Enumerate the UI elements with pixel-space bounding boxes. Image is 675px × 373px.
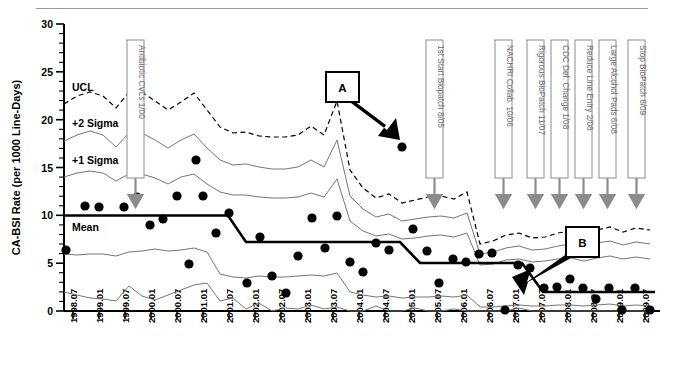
callout-a-label: A	[338, 82, 346, 94]
x-tick-label-5: 2001.01	[198, 288, 209, 323]
data-point	[145, 220, 154, 229]
callout-b-label: B	[578, 237, 586, 249]
data-point	[172, 191, 181, 200]
y-tick-label-20: 20	[41, 114, 53, 126]
annotation-rigorous-biopatch-label: Rigorous BioPatch 11/07	[537, 45, 546, 135]
data-point	[539, 283, 548, 292]
annotation-rigorous-biopatch[interactable]: Rigorous BioPatch 11/07	[527, 40, 546, 196]
data-point	[448, 254, 457, 263]
annotation-antibiotic-cvls[interactable]: Antibiotic CVLs 1/00	[127, 40, 146, 196]
data-point	[332, 211, 341, 220]
control-chart-plot: 30 25 20 15 10 5 0 CA-BSI Rate (per 1000…	[0, 0, 675, 373]
data-point	[158, 214, 167, 223]
data-point	[307, 213, 316, 222]
annotation-nachri-collab-label: NACHRI Collab. 10/06	[505, 45, 514, 127]
data-point	[461, 257, 470, 266]
x-tick-label-10: 2003.07	[328, 289, 339, 323]
x-tick-label-3: 2000.01	[146, 288, 157, 323]
data-point	[630, 283, 639, 292]
y-tick-label-25: 25	[41, 66, 53, 78]
data-point	[617, 305, 626, 314]
data-point	[191, 155, 200, 164]
plus-1-sigma-line	[64, 171, 650, 265]
mean-label: Mean	[72, 221, 99, 233]
data-point	[384, 245, 393, 254]
data-point	[578, 283, 587, 292]
data-point	[94, 202, 103, 211]
data-point	[224, 208, 233, 217]
x-tick-label-7: 2002.01	[250, 288, 261, 323]
data-point	[242, 278, 251, 287]
y-tick-label-10: 10	[41, 209, 53, 221]
plus-2-sigma-label: +2 Sigma	[72, 117, 119, 129]
data-point	[487, 248, 496, 257]
data-point	[184, 259, 193, 268]
data-point	[198, 191, 207, 200]
x-tick-label-16: 2006.07	[484, 289, 495, 323]
data-point	[267, 271, 276, 280]
annotation-stop-biopatch[interactable]: Stop BioPatch 6/09	[628, 40, 647, 196]
y-axis-title: CA-BSI Rate (per 1000 Line-Days)	[10, 79, 22, 255]
data-point	[211, 228, 220, 237]
y-tick-label-0: 0	[47, 305, 53, 317]
data-point	[552, 282, 561, 291]
data-point	[293, 251, 302, 260]
annotation-first-start-biopatch[interactable]: 1st Start Biopatch 8/05	[426, 40, 445, 196]
annotation-large-alcohol-pads-label: Large Alcohol Pads 6/08	[609, 45, 618, 134]
data-point	[320, 243, 329, 252]
data-point	[371, 238, 380, 247]
annotation-cdc-def-change-label: CDC Def. Change 1/08	[561, 45, 570, 130]
data-point	[645, 305, 654, 314]
annotation-antibiotic-cvls-label: Antibiotic CVLs 1/00	[137, 45, 146, 119]
data-point	[80, 201, 89, 210]
spc-chart-figure: 30 25 20 15 10 5 0 CA-BSI Rate (per 1000…	[0, 0, 675, 373]
data-point	[408, 224, 417, 233]
data-point	[345, 257, 354, 266]
data-point	[591, 294, 600, 303]
data-point	[255, 232, 264, 241]
data-point	[474, 249, 483, 258]
data-point	[358, 267, 367, 276]
data-point	[565, 274, 574, 283]
data-point	[61, 245, 70, 254]
data-point	[422, 246, 431, 255]
y-axis-major-ticks	[56, 24, 64, 311]
x-tick-label-1: 1999.01	[94, 288, 105, 323]
annotation-reduce-line-entry[interactable]: Reduce Line Entry 2/08	[575, 40, 594, 196]
x-tick-label-13: 2005.01	[406, 288, 417, 323]
x-tick-label-6: 2001.07	[224, 289, 235, 323]
annotation-reduce-line-entry-label: Reduce Line Entry 2/08	[585, 45, 594, 131]
callout-a[interactable]: A	[326, 72, 400, 140]
x-tick-label-12: 2004.07	[380, 289, 391, 323]
x-tick-label-14: 2005.07	[432, 289, 443, 323]
x-tick-label-4: 2000.07	[172, 289, 183, 323]
plus-1-sigma-label: +1 Sigma	[72, 154, 119, 166]
y-tick-label-15: 15	[41, 162, 53, 174]
data-point	[281, 288, 290, 297]
data-point	[397, 142, 406, 151]
data-point	[604, 283, 613, 292]
data-point	[132, 192, 141, 201]
ucl-label: UCL	[72, 81, 94, 93]
annotation-first-start-biopatch-label: 1st Start Biopatch 8/05	[436, 45, 445, 128]
data-point	[513, 260, 522, 269]
annotation-cdc-def-change[interactable]: CDC Def. Change 1/08	[551, 40, 570, 196]
y-tick-label-5: 5	[47, 257, 53, 269]
y-tick-label-30: 30	[41, 18, 53, 30]
x-tick-label-15: 2006.01	[458, 288, 469, 323]
annotation-large-alcohol-pads[interactable]: Large Alcohol Pads 6/08	[599, 40, 618, 196]
data-point	[500, 305, 509, 314]
annotation-stop-biopatch-label: Stop BioPatch 6/09	[638, 45, 647, 116]
data-point	[119, 202, 128, 211]
data-point	[434, 278, 443, 287]
annotation-nachri-collab[interactable]: NACHRI Collab. 10/06	[495, 40, 514, 196]
